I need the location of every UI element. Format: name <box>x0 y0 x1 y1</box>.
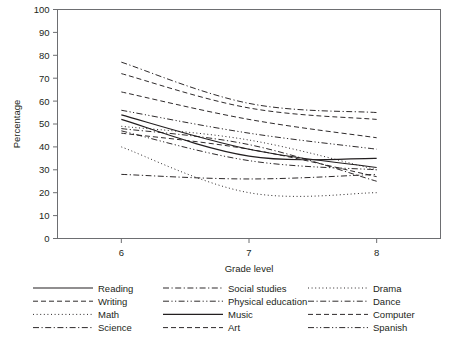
y-tick-label: 30 <box>39 164 50 175</box>
legend-label-spanish: Spanish <box>373 322 407 333</box>
legend-label-social-studies: Social studies <box>228 283 287 294</box>
y-tick-label: 50 <box>39 118 50 129</box>
legend-label-reading: Reading <box>98 283 133 294</box>
legend-label-computer: Computer <box>373 309 415 320</box>
y-tick-label: 60 <box>39 96 50 107</box>
series-line-dance <box>121 174 376 179</box>
legend-label-art: Art <box>228 322 241 333</box>
legend-label-drama: Drama <box>373 283 402 294</box>
line-chart-figure: 0102030405060708090100 678 Percentage Gr… <box>0 0 452 337</box>
series-line-physical-education <box>121 110 376 149</box>
legend-label-science: Science <box>98 322 132 333</box>
x-tick-label: 6 <box>119 247 124 258</box>
x-tick-label: 7 <box>246 247 251 258</box>
y-axis-title: Percentage <box>11 100 22 149</box>
y-tick-label: 80 <box>39 50 50 61</box>
y-tick-label: 0 <box>44 233 49 244</box>
legend-label-writing: Writing <box>98 296 127 307</box>
series-line-math <box>121 147 376 197</box>
series-line-spanish <box>121 131 376 170</box>
series-line-art <box>121 74 376 120</box>
x-tick-label: 8 <box>374 247 379 258</box>
x-axis-title: Grade level <box>225 263 274 274</box>
legend-label-physical-education: Physical education <box>228 296 307 307</box>
y-tick-label: 90 <box>39 27 50 38</box>
series-line-science <box>121 129 376 182</box>
legend-label-music: Music <box>228 309 253 320</box>
chart-svg: 0102030405060708090100 678 Percentage Gr… <box>0 0 452 337</box>
chart-legend: ReadingWritingMathScienceSocial studiesP… <box>33 283 415 334</box>
y-tick-label: 10 <box>39 210 50 221</box>
series-line-computer <box>121 92 376 138</box>
y-tick-label: 70 <box>39 73 50 84</box>
y-axis: 0102030405060708090100 <box>34 4 58 244</box>
series-line-writing <box>121 133 376 177</box>
legend-label-dance: Dance <box>373 296 400 307</box>
plot-frame <box>58 10 441 239</box>
series-line-social-studies <box>121 62 376 112</box>
series-lines <box>121 62 376 196</box>
legend-label-math: Math <box>98 309 119 320</box>
y-tick-label: 20 <box>39 187 50 198</box>
y-tick-label: 100 <box>34 4 50 15</box>
y-tick-label: 40 <box>39 141 50 152</box>
x-axis: 678 <box>119 239 380 258</box>
